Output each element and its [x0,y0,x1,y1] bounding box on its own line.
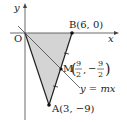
x-axis-arrow-icon [114,31,119,35]
svg-text:,: , [83,64,86,75]
y-axis-label: y [13,2,20,13]
svg-text:9: 9 [76,59,81,68]
point-m-label: M ( 9 2 , − 9 2 ) [63,59,110,79]
origin-label: O [14,33,22,44]
x-axis-label: x [108,33,114,44]
svg-text:9: 9 [98,59,103,68]
svg-text:2: 2 [98,70,103,79]
svg-text:−: − [88,63,96,74]
point-a-label: A(3, −9) [51,103,95,114]
point-a [47,103,51,107]
point-b [70,31,74,35]
diagram-canvas: y x O B(6, 0) A(3, −9) M ( 9 2 , − 9 2 )… [0,0,127,122]
svg-text:): ) [105,61,110,77]
point-b-label: B(6, 0) [69,19,103,30]
svg-text:2: 2 [76,70,81,79]
line-y-mx-label: y = mx [79,83,116,94]
y-axis-arrow-icon [23,3,27,8]
